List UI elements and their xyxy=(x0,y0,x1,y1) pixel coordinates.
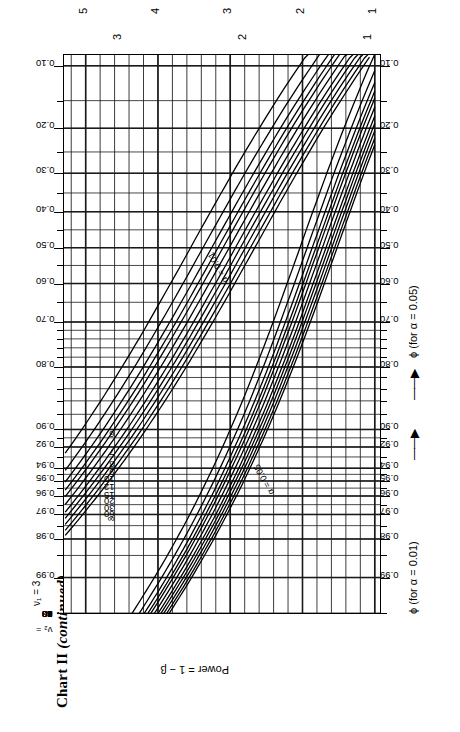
power-axis-title: Power = 1 − β xyxy=(160,664,229,676)
power-minor-tick xyxy=(381,193,387,194)
phi-alpha05-axis-title: ϕ (for α = 0.05) xyxy=(407,285,419,358)
power-minor-tick xyxy=(57,468,63,469)
power-minor-tick xyxy=(381,555,387,556)
power-minor-tick xyxy=(381,339,387,340)
power-minor-tick xyxy=(381,152,387,153)
power-minor-tick xyxy=(57,212,63,213)
power-minor-tick xyxy=(57,322,63,323)
power-tick-label: 0.95 xyxy=(36,472,55,483)
phi-alpha05-tick-label: 1 xyxy=(366,8,378,14)
power-minor-tick xyxy=(381,66,387,67)
power-tick-label: 0.96 xyxy=(36,487,55,498)
power-tick-label: 0.99 xyxy=(36,569,55,580)
power-minor-tick xyxy=(381,248,387,249)
power-minor-tick xyxy=(381,457,387,458)
power-minor-tick xyxy=(57,447,63,448)
power-tick-label: 0.20 xyxy=(36,120,55,131)
power-tick-label: 0.80 xyxy=(36,359,55,370)
plot-area xyxy=(63,54,381,614)
power-minor-tick xyxy=(381,302,387,303)
power-minor-tick xyxy=(381,496,387,497)
power-minor-tick xyxy=(381,212,387,213)
power-tick-label: 0.70 xyxy=(36,314,55,325)
power-minor-tick xyxy=(57,66,63,67)
power-curves xyxy=(64,54,381,613)
power-tick-label: 0.60 xyxy=(36,275,55,286)
power-tick-label: 0.90 xyxy=(36,421,55,432)
power-minor-tick xyxy=(381,488,387,489)
power-tick-label: 0.94 xyxy=(36,460,55,471)
power-minor-tick xyxy=(381,401,387,402)
phi-alpha05-tick-label: 2 xyxy=(294,8,306,14)
power-minor-tick xyxy=(381,468,387,469)
power-minor-tick xyxy=(381,526,387,527)
power-minor-tick xyxy=(57,526,63,527)
phi-alpha05-tick-label: 3 xyxy=(221,8,233,14)
power-minor-tick xyxy=(381,128,387,129)
power-minor-tick xyxy=(57,330,63,331)
nu1-label: ν₁ = 3 xyxy=(31,581,42,606)
power-minor-tick xyxy=(381,505,387,506)
nu2-prefix-alpha005: ν₂ = xyxy=(36,625,53,636)
power-minor-tick xyxy=(57,457,63,458)
power-minor-tick xyxy=(381,514,387,515)
power-minor-tick xyxy=(57,555,63,556)
power-tick-label: 0.97 xyxy=(36,506,55,517)
power-minor-tick xyxy=(381,230,387,231)
power-minor-tick xyxy=(57,128,63,129)
power-minor-tick xyxy=(381,438,387,439)
phi-alpha01-tick-label: 1 xyxy=(361,34,373,40)
power-minor-tick xyxy=(57,377,63,378)
nu2-label-alpha001: 6 xyxy=(109,429,114,440)
power-minor-tick xyxy=(57,438,63,439)
power-minor-tick xyxy=(57,539,63,540)
power-minor-tick xyxy=(57,265,63,266)
power-minor-tick xyxy=(381,265,387,266)
power-minor-tick xyxy=(381,377,387,378)
nu2-label-alpha001: 7 xyxy=(109,446,114,457)
power-minor-tick xyxy=(57,101,63,102)
phi-alpha01-tick-label: 3 xyxy=(111,34,123,40)
power-minor-tick xyxy=(57,488,63,489)
power-minor-tick xyxy=(57,481,63,482)
power-tick-label: 0.92 xyxy=(36,438,55,449)
power-minor-tick xyxy=(57,357,63,358)
power-minor-tick xyxy=(381,539,387,540)
power-minor-tick xyxy=(57,173,63,174)
power-minor-tick xyxy=(57,474,63,475)
power-minor-tick xyxy=(381,101,387,102)
power-minor-tick xyxy=(381,481,387,482)
power-minor-tick xyxy=(57,302,63,303)
power-minor-tick xyxy=(381,414,387,415)
power-minor-tick xyxy=(57,401,63,402)
power-minor-tick xyxy=(57,496,63,497)
power-minor-tick xyxy=(57,613,63,614)
power-minor-tick xyxy=(57,339,63,340)
phi-alpha01-arrow: ——▶ xyxy=(407,430,421,460)
phi-alpha05-arrow: ——▶ xyxy=(407,370,421,400)
power-minor-tick xyxy=(381,348,387,349)
nu2-label-alpha005: 6 xyxy=(47,609,52,620)
power-tick-label: 0.30 xyxy=(36,165,55,176)
power-minor-tick xyxy=(57,230,63,231)
power-minor-tick xyxy=(381,330,387,331)
phi-alpha01-axis-title: ϕ (for α = 0.01) xyxy=(407,541,419,614)
power-minor-tick xyxy=(57,505,63,506)
power-tick-label: 0.98 xyxy=(36,530,55,541)
power-minor-tick xyxy=(381,173,387,174)
power-minor-tick xyxy=(381,447,387,448)
power-tick-label: 0.40 xyxy=(36,203,55,214)
power-tick-label: 0.50 xyxy=(36,239,55,250)
power-minor-tick xyxy=(381,474,387,475)
power-minor-tick xyxy=(381,357,387,358)
power-minor-tick xyxy=(57,348,63,349)
power-minor-tick xyxy=(57,429,63,430)
power-minor-tick xyxy=(57,389,63,390)
power-minor-tick xyxy=(57,152,63,153)
power-minor-tick xyxy=(57,514,63,515)
power-minor-tick xyxy=(381,389,387,390)
power-minor-tick xyxy=(381,429,387,430)
power-minor-tick xyxy=(381,367,387,368)
power-minor-tick xyxy=(57,248,63,249)
power-minor-tick xyxy=(57,578,63,579)
